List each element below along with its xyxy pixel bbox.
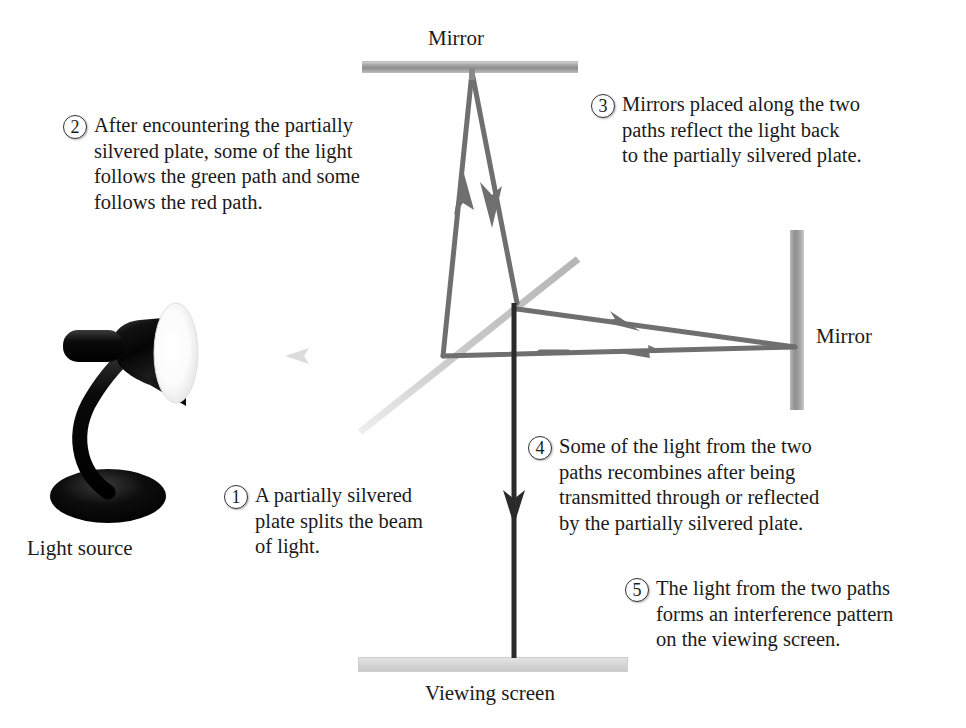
beam-splitter-plate xyxy=(360,259,578,432)
callout-3-text: Mirrors placed along the two paths refle… xyxy=(622,92,862,169)
callout-1-text: A partially silvered plate splits the be… xyxy=(255,483,423,560)
callout-1: 1 A partially silvered plate splits the … xyxy=(224,483,474,560)
callout-5-text: The light from the two paths forms an in… xyxy=(656,576,893,653)
callout-3-number: 3 xyxy=(591,94,615,118)
callout-2: 2 After encountering the partially silve… xyxy=(63,113,413,215)
horizontal-out-beam xyxy=(443,345,795,358)
vertical-up-beam xyxy=(443,72,474,356)
light-source-lamp xyxy=(50,303,198,523)
label-viewing-screen: Viewing screen xyxy=(425,681,555,705)
callout-2-text: After encountering the partially silvere… xyxy=(94,113,360,215)
callout-3: 3 Mirrors placed along the two paths ref… xyxy=(591,92,943,169)
callout-5-number: 5 xyxy=(625,578,649,602)
label-mirror-top: Mirror xyxy=(428,26,484,50)
callout-5: 5 The light from the two paths forms an … xyxy=(625,576,955,653)
interferometer-diagram: Mirror Mirror Light source Viewing scree… xyxy=(0,0,966,728)
callout-4: 4 Some of the light from the two paths r… xyxy=(528,434,898,536)
top-mirror-mount xyxy=(469,68,475,80)
label-mirror-right: Mirror xyxy=(816,324,872,348)
vertical-down-beam xyxy=(472,72,517,303)
callout-4-text: Some of the light from the two paths rec… xyxy=(559,434,819,536)
callout-1-number: 1 xyxy=(224,485,248,509)
label-light-source: Light source xyxy=(27,536,133,560)
callout-4-number: 4 xyxy=(528,436,552,460)
horizontal-return-beam xyxy=(517,309,795,347)
callout-2-number: 2 xyxy=(63,115,87,139)
incident-beam xyxy=(175,348,443,364)
